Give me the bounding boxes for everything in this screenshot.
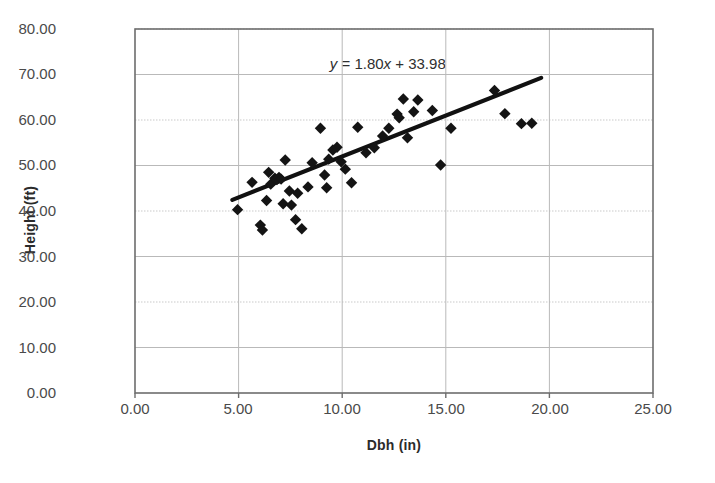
data-point bbox=[383, 122, 394, 133]
data-point bbox=[315, 122, 326, 133]
data-point bbox=[427, 105, 438, 116]
data-point bbox=[321, 182, 332, 193]
data-point bbox=[284, 185, 295, 196]
data-point bbox=[296, 223, 307, 234]
data-point bbox=[261, 195, 272, 206]
data-point bbox=[398, 93, 409, 104]
data-point bbox=[408, 106, 419, 117]
plot-area bbox=[0, 0, 715, 483]
data-point bbox=[232, 204, 243, 215]
data-point bbox=[499, 108, 510, 119]
data-point bbox=[319, 169, 330, 180]
data-point bbox=[352, 122, 363, 133]
data-point bbox=[435, 159, 446, 170]
scatter-chart: Height (ft) Dbh (in) 80.00 70.00 60.00 5… bbox=[0, 0, 715, 483]
data-point bbox=[412, 94, 423, 105]
data-point bbox=[302, 181, 313, 192]
data-point bbox=[286, 199, 297, 210]
data-point bbox=[445, 122, 456, 133]
data-point bbox=[346, 177, 357, 188]
data-point bbox=[290, 214, 301, 225]
data-point bbox=[280, 154, 291, 165]
data-point bbox=[246, 177, 257, 188]
data-point bbox=[526, 117, 537, 128]
data-point bbox=[292, 188, 303, 199]
